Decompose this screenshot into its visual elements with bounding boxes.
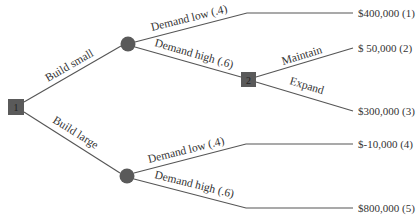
label-large-demand-high: Demand high (.6): [153, 168, 235, 200]
chance-node-small: [121, 37, 136, 52]
decision-node-1: 1: [8, 99, 24, 115]
payoff-4: $-10,000 (4): [358, 138, 413, 151]
payoff-5: $800,000 (5): [358, 202, 415, 215]
label-large-demand-low: Demand low (.4): [147, 134, 226, 166]
edge-large-demand-high: [134, 179, 353, 208]
label-small-demand-low: Demand low (.4): [150, 2, 229, 34]
chance-node-large: [120, 169, 135, 184]
decision-tree: 1 2 Build small Build large Demand low (…: [0, 0, 416, 222]
label-build-large: Build large: [50, 114, 100, 152]
decision-node-2: 2: [241, 72, 256, 87]
label-small-demand-high: Demand high (.6): [153, 36, 235, 71]
payoff-3: $300,000 (3): [358, 105, 415, 118]
decision-node-1-label: 1: [14, 102, 19, 113]
edge-build-large: [24, 112, 120, 173]
decision-node-2-label: 2: [246, 75, 251, 86]
payoff-1: $400,000 (1): [358, 7, 415, 20]
edge-build-small: [24, 46, 121, 102]
payoff-2: $ 50,000 (2): [358, 42, 412, 55]
